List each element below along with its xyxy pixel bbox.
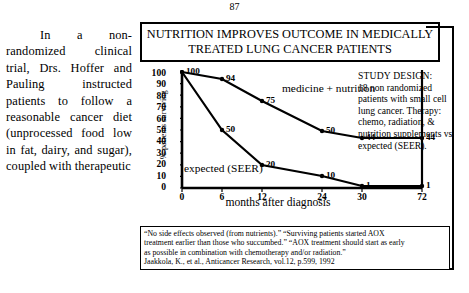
study-design-text: 18 non randomized patients with small ce… xyxy=(358,82,456,152)
y-tick-100: 100 xyxy=(144,68,166,78)
y-tick-60: 60 xyxy=(144,114,166,124)
point-label-seer-24: 10 xyxy=(326,171,335,180)
figure-title: NUTRITION IMPROVES OUTCOME IN MEDICALLY … xyxy=(142,27,438,58)
quote-line-2: treatment earlier than those who succumb… xyxy=(144,238,446,247)
x-axis-label: months after diagnosis xyxy=(158,196,398,209)
page-header: 87 xyxy=(0,0,469,20)
y-tick-0: 0 xyxy=(144,182,166,192)
page-number: 87 xyxy=(0,0,469,14)
y-tick-70: 70 xyxy=(144,102,166,112)
point-label-mn-12: 75 xyxy=(266,96,275,105)
figure-block: NUTRITION IMPROVES OUTCOME IN MEDICALLY … xyxy=(140,22,464,272)
study-design-panel: STUDY DESIGN: 18 non randomized patients… xyxy=(358,70,456,151)
point-label-seer-6: 50 xyxy=(226,125,235,134)
point-label-seer-12: 20 xyxy=(266,160,275,169)
series-legend-expected-seer: expected (SEER) xyxy=(184,162,263,174)
y-tick-80: 80 xyxy=(144,91,166,101)
point-label-mn-24: 50 xyxy=(326,126,335,135)
x-tick-72: 72 xyxy=(412,192,432,202)
figure-title-box: NUTRITION IMPROVES OUTCOME IN MEDICALLY … xyxy=(140,22,440,62)
y-tick-10: 10 xyxy=(144,171,166,181)
body-paragraph: In a non-randomized clinical trial, Drs.… xyxy=(6,27,132,175)
y-tick-90: 90 xyxy=(144,79,166,89)
point-label-mn-6: 94 xyxy=(226,74,235,83)
quote-line-3: as possible in combination with chemothe… xyxy=(144,248,446,257)
y-tick-50: 50 xyxy=(144,125,166,135)
figure-frame-top-stub xyxy=(426,26,454,28)
body-text-column: In a non-randomized clinical trial, Drs.… xyxy=(6,27,132,175)
y-tick-40: 40 xyxy=(144,136,166,146)
y-tick-20: 20 xyxy=(144,159,166,169)
point-label-mn-0: 100 xyxy=(186,67,200,76)
y-tick-30: 30 xyxy=(144,148,166,158)
quote-box: “No side effects observed (from nutrient… xyxy=(140,226,450,270)
point-label-seer-30: 1 xyxy=(366,181,371,190)
point-label-seer-72: 1 xyxy=(426,181,431,190)
quote-line-1: “No side effects observed (from nutrient… xyxy=(144,229,446,238)
study-design-heading: STUDY DESIGN: xyxy=(358,70,456,82)
quote-citation: Jaakkola, K., et al., Anticancer Researc… xyxy=(144,257,446,266)
